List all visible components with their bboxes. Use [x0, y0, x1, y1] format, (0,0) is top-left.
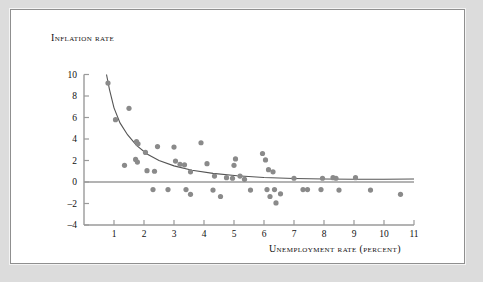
y-tick-label: 8 [72, 91, 77, 101]
data-point [188, 192, 193, 197]
data-point [270, 169, 275, 174]
fit-curve-group [107, 75, 415, 180]
y-tick-label: 6 [72, 113, 77, 123]
data-point [263, 157, 268, 162]
x-tick-label: 6 [262, 229, 267, 239]
y-tick-label: 4 [72, 134, 77, 144]
data-point [368, 187, 373, 192]
data-point [152, 169, 157, 174]
data-point [183, 187, 188, 192]
data-point [177, 162, 182, 167]
data-points-group [105, 81, 403, 206]
data-point [165, 187, 170, 192]
y-tick-group: –4–20246810 [67, 70, 90, 231]
y-tick-label: –2 [67, 199, 78, 209]
x-tick-label: 3 [172, 229, 177, 239]
fit-curve [107, 75, 415, 180]
data-point [135, 141, 140, 146]
scatter-plot: –4–20246810 1234567891011 [11, 10, 466, 265]
figure-frame: Inflation rate Unemployment rate (percen… [0, 0, 483, 282]
data-point [233, 156, 238, 161]
y-tick-label: –4 [67, 220, 78, 230]
data-point [188, 169, 193, 174]
data-point [198, 140, 203, 145]
data-point [144, 168, 149, 173]
x-tick-label: 4 [202, 229, 207, 239]
data-point [105, 81, 110, 86]
data-point [333, 176, 338, 181]
data-point [318, 187, 323, 192]
data-point [224, 175, 229, 180]
data-point [210, 187, 215, 192]
data-point [266, 167, 271, 172]
data-point [113, 117, 118, 122]
data-point [171, 144, 176, 149]
data-point [272, 187, 277, 192]
axes-group [84, 75, 414, 226]
data-point [267, 194, 272, 199]
data-point [150, 187, 155, 192]
data-point [320, 176, 325, 181]
x-tick-label: 8 [322, 229, 327, 239]
x-tick-label: 2 [142, 229, 147, 239]
data-point [264, 187, 269, 192]
data-point [143, 150, 148, 155]
figure-panel: Inflation rate Unemployment rate (percen… [10, 9, 465, 264]
y-tick-label: 10 [68, 70, 78, 80]
data-point [122, 163, 127, 168]
data-point [135, 160, 140, 165]
x-tick-label: 7 [292, 229, 297, 239]
data-point [300, 187, 305, 192]
data-point [173, 158, 178, 163]
x-tick-label: 1 [112, 229, 117, 239]
data-point [204, 161, 209, 166]
data-point [230, 176, 235, 181]
data-point [305, 187, 310, 192]
data-point [260, 151, 265, 156]
data-point [336, 187, 341, 192]
data-point [398, 192, 403, 197]
data-point [212, 173, 217, 178]
data-point [218, 194, 223, 199]
y-tick-label: 0 [72, 177, 77, 187]
x-tick-label: 10 [379, 229, 389, 239]
y-tick-label: 2 [72, 156, 77, 166]
data-point [291, 176, 296, 181]
x-tick-group: 1234567891011 [112, 220, 419, 239]
data-point [126, 106, 131, 111]
data-point [182, 162, 187, 167]
data-point [353, 175, 358, 180]
data-point [278, 191, 283, 196]
data-point [237, 173, 242, 178]
data-point [273, 200, 278, 205]
data-point [242, 177, 247, 182]
x-tick-label: 5 [232, 229, 237, 239]
x-tick-label: 9 [352, 229, 357, 239]
data-point [231, 163, 236, 168]
data-point [155, 144, 160, 149]
data-point [248, 187, 253, 192]
x-tick-label: 11 [409, 229, 418, 239]
